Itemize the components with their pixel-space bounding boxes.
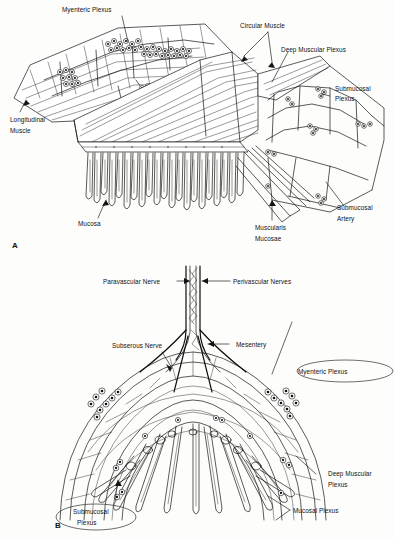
label-submucosal-plexus-a-line2: Plexus xyxy=(335,95,354,102)
leader-submucosal-artery-a xyxy=(326,182,344,206)
label-mesentery-b: Mesentery xyxy=(236,341,267,349)
label-deep-muscular-plexus-b-line1: Deep Muscular xyxy=(328,470,372,478)
panel-marker-b: B xyxy=(55,521,61,530)
label-paravascular-nerve-b: Paravascular Nerve xyxy=(103,278,160,285)
panel-marker-a: A xyxy=(12,241,18,250)
muscularis-mucosae-sheets-a xyxy=(236,146,314,222)
label-submucosal-plexus-a-line1: Submucosal xyxy=(335,85,371,92)
leader-mucosal-plexus-b xyxy=(268,496,290,520)
label-circular-muscle-a: Circular Muscle xyxy=(240,22,285,29)
label-muscularis-mucosae-a-line1: Muscularis xyxy=(255,224,286,231)
label-longitudinal-muscle-a-line2: Muscle xyxy=(10,127,31,134)
panel-b-illustration xyxy=(60,266,326,520)
label-submucosal-artery-a-line1: Submucosal xyxy=(337,204,373,211)
label-submucosal-plexus-b-line1: Submucosal xyxy=(73,508,109,515)
mucosa-villi-a xyxy=(86,153,244,210)
leader-deep-muscular-plexus-b xyxy=(296,456,316,474)
figure-root: Myenteric Plexus Circular Muscle Deep Mu… xyxy=(0,0,394,540)
panel-b-leaders xyxy=(115,281,316,520)
myenteric-ganglia-b-right xyxy=(265,388,299,419)
label-perivascular-nerves-b: Perivascular Nerves xyxy=(233,278,291,285)
label-mucosal-plexus-b: Mucosal Plexus xyxy=(293,507,338,514)
label-longitudinal-muscle-a-line1: Longitudinal xyxy=(10,116,45,124)
inner-ganglia-b xyxy=(113,415,292,499)
submucosal-plexus-network-a xyxy=(266,86,372,212)
label-mucosa-a: Mucosa xyxy=(78,220,101,227)
label-deep-muscular-plexus-a: Deep Muscular Plexus xyxy=(281,46,346,54)
vessel-texture-b xyxy=(189,268,199,350)
label-myenteric-plexus-b: Myenteric Plexus xyxy=(298,368,347,376)
label-subserous-nerve-b: Subserous Nerve xyxy=(112,342,163,349)
leader-circular-muscle-a xyxy=(244,32,272,62)
label-submucosal-plexus-b-line2: Plexus xyxy=(77,519,96,526)
label-myenteric-plexus-a: Myenteric Plexus xyxy=(62,6,111,14)
label-muscularis-mucosae-a-line2: Mucosae xyxy=(255,235,282,242)
anatomical-figure: Myenteric Plexus Circular Muscle Deep Mu… xyxy=(0,0,394,540)
label-submucosal-artery-a-line2: Artery xyxy=(337,215,355,223)
label-deep-muscular-plexus-b-line2: Plexus xyxy=(328,481,347,488)
mucosa-villi-b xyxy=(91,424,294,514)
leader-myenteric-plexus-b xyxy=(272,322,292,374)
panel-a-illustration xyxy=(14,24,384,222)
